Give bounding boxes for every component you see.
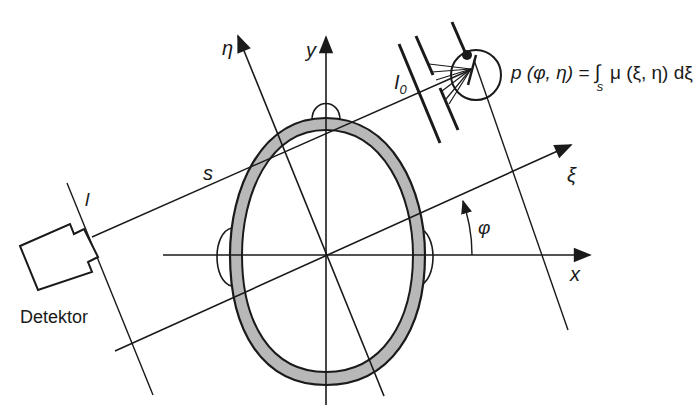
- source-intensity-symbol: I: [394, 71, 400, 93]
- detector-box: [20, 224, 98, 290]
- formula-lhs: p (φ, η) =: [511, 62, 589, 83]
- phi-angle-label: φ: [478, 218, 490, 237]
- formula-integral-subscript: s: [597, 80, 604, 93]
- ray-s-label: s: [203, 163, 213, 183]
- source-line: [474, 60, 568, 330]
- source-intensity-label: I0: [394, 72, 407, 92]
- y-axis-label: y: [306, 40, 316, 60]
- head-skull: [217, 104, 433, 386]
- skull-inner: [242, 130, 413, 372]
- detector-label: Detektor: [20, 308, 88, 326]
- x-ray-source: [399, 22, 501, 143]
- projection-formula: p (φ, η) = ∫ s μ (ξ, η) dξ: [511, 62, 693, 82]
- phi-arc: [463, 201, 472, 255]
- formula-rhs: μ (ξ, η) dξ: [610, 62, 693, 83]
- eta-axis-label: η: [222, 38, 233, 58]
- x-axis-label: x: [570, 264, 580, 284]
- ct-projection-diagram: η y ξ x φ s l I0 Detektor p (φ, η) = ∫ s…: [0, 0, 695, 420]
- xi-axis-label: ξ: [567, 165, 576, 185]
- detector-line-l: [67, 183, 153, 395]
- detector-line-label: l: [85, 190, 89, 209]
- source-intensity-subscript: 0: [400, 82, 407, 97]
